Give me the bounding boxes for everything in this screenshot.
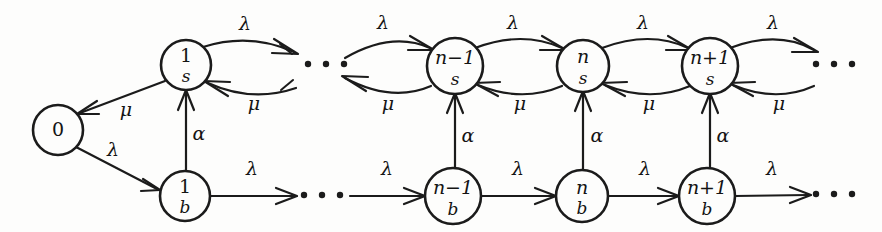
- rate-label-lambda-n-b: λ: [638, 157, 651, 179]
- edge-dots-to-bn1-lambda: [350, 188, 425, 204]
- node-state-1b[interactable]: 1 b: [160, 171, 210, 221]
- node-label-state-1s-top: 1: [180, 44, 192, 66]
- dots-lower-right: [813, 191, 855, 197]
- node-label-n-plus-1-b-bottom: b: [702, 199, 713, 219]
- dots-upper-right: [813, 61, 855, 67]
- node-state-n-plus-1-b[interactable]: n+1 b: [679, 168, 735, 224]
- rate-label-mu-n-minus-1-s: μ: [514, 92, 526, 114]
- rate-label-alpha-n-minus-1: α: [462, 124, 475, 146]
- node-label-n-plus-1-b-top: n+1: [687, 176, 727, 198]
- markov-chain-diagram: 0 1 s 1 b n−1 s n−1: [0, 0, 882, 232]
- node-state-n-s[interactable]: n s: [557, 40, 609, 92]
- node-state-0[interactable]: 0: [33, 105, 83, 155]
- rate-label-alpha-n-plus-1: α: [717, 124, 730, 146]
- edge-sn-to-snp1-lambda: [602, 36, 692, 50]
- rate-label-mu-n-s: μ: [643, 92, 655, 114]
- rate-label-lambda-0: λ: [106, 138, 119, 160]
- node-state-n-plus-1-s[interactable]: n+1 s: [682, 38, 738, 94]
- node-state-n-minus-1-b[interactable]: n−1 b: [425, 168, 481, 224]
- node-state-n-b[interactable]: n b: [556, 170, 608, 222]
- rate-label-lambda-dots-s: λ: [376, 11, 389, 33]
- rate-label-mu-n-plus-1-s: μ: [773, 92, 785, 114]
- rate-label-layer: μ λ α λ μ λ λ μ λ α λ μ λ α λ μ λ α λ μ …: [106, 11, 785, 179]
- node-state-n-minus-1-s[interactable]: n−1 s: [427, 38, 483, 94]
- chain-svg: 0 1 s 1 b n−1 s n−1: [0, 0, 882, 232]
- rate-label-mu-dots-s: μ: [382, 92, 394, 114]
- node-label-n-b-top: n: [576, 176, 588, 198]
- dots-lower-left: [301, 192, 343, 198]
- node-label-n-minus-1-b-bottom: b: [448, 199, 459, 219]
- rate-label-lambda-dots-b: λ: [380, 157, 393, 179]
- rate-label-mu-1s: μ: [248, 92, 260, 114]
- edge-bn-to-bnp1-lambda: [608, 188, 679, 204]
- rate-label-lambda-n-plus-1-s: λ: [766, 11, 779, 33]
- node-label-state-1s-bottom: s: [182, 66, 191, 86]
- edge-sn1-to-sn-lambda: [475, 36, 566, 50]
- rate-label-lambda-n-s: λ: [636, 11, 649, 33]
- node-label-n-s-top: n: [577, 45, 589, 67]
- node-label-n-plus-1-s-top: n+1: [690, 46, 730, 68]
- rate-label-lambda-n-minus-1-s: λ: [506, 11, 519, 33]
- rate-label-lambda-1s: λ: [238, 12, 251, 34]
- edge-bnp1-right-lambda: [735, 187, 811, 203]
- edge-sn1-to-dots-mu: [342, 76, 431, 93]
- rate-label-alpha-n: α: [591, 124, 604, 146]
- dots-upper-left: [305, 61, 347, 67]
- node-label-state-0: 0: [52, 118, 64, 140]
- node-label-n-minus-1-b-top: n−1: [433, 176, 473, 198]
- rate-label-mu-0: μ: [120, 98, 132, 120]
- node-state-1s[interactable]: 1 s: [161, 40, 211, 90]
- node-label-state-1b-bottom: b: [180, 197, 191, 217]
- edge-right-to-snp1-mu: [729, 82, 814, 96]
- node-label-n-b-bottom: b: [577, 198, 588, 218]
- edge-dots-to-sn1-lambda: [345, 36, 434, 58]
- rate-label-lambda-n-minus-1-b: λ: [511, 157, 524, 179]
- node-label-state-1b-top: 1: [179, 175, 191, 197]
- node-label-n-minus-1-s-top: n−1: [435, 46, 475, 68]
- edge-bn1-to-bn-lambda: [481, 188, 556, 204]
- node-label-n-minus-1-s-bottom: s: [451, 69, 460, 89]
- node-label-n-plus-1-s-bottom: s: [706, 69, 715, 89]
- edge-bn-to-sn-alpha: [575, 91, 591, 170]
- edge-snp1-right-lambda: [730, 38, 818, 52]
- rate-label-alpha-1: α: [193, 122, 206, 144]
- node-label-n-s-bottom: s: [579, 68, 588, 88]
- rate-label-lambda-n-plus-1-b: λ: [765, 157, 778, 179]
- rate-label-lambda-1b: λ: [245, 157, 258, 179]
